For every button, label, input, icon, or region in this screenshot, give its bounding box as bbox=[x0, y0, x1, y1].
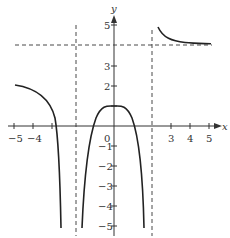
y-tick-label: 2 bbox=[104, 81, 110, 92]
x-tick-label: −5 bbox=[8, 133, 23, 144]
x-tick-label: 5 bbox=[206, 133, 212, 144]
function-graph: −5 −4 0 3 4 5 x 5 3 2 −1 −2 −3 −4 −5 y bbox=[0, 0, 230, 238]
y-tick-label: 5 bbox=[104, 20, 110, 31]
curve-right-branch bbox=[158, 27, 211, 44]
y-axis-label: y bbox=[110, 3, 117, 14]
x-axis-label: x bbox=[222, 121, 228, 132]
y-tick-label: −4 bbox=[98, 201, 113, 212]
y-tick-label: 3 bbox=[104, 61, 110, 72]
curve-left-branch bbox=[15, 85, 61, 228]
curve-middle-branch bbox=[82, 106, 144, 228]
y-tick-label: −2 bbox=[98, 161, 113, 172]
x-tick-label: −4 bbox=[27, 133, 42, 144]
x-tick-label: 4 bbox=[187, 133, 193, 144]
x-tick-label: 3 bbox=[168, 133, 174, 144]
y-tick-label: −1 bbox=[98, 141, 113, 152]
y-axis-arrow-icon bbox=[111, 15, 117, 23]
x-axis-arrow-icon bbox=[214, 123, 222, 129]
y-tick-label: −5 bbox=[98, 221, 113, 232]
y-tick-label: −3 bbox=[98, 181, 113, 192]
